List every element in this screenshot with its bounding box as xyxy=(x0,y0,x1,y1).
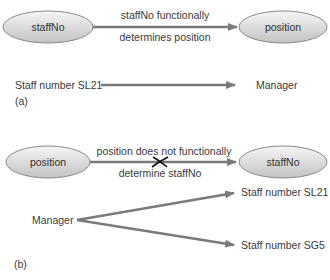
edge-label-line1: staffNo functionally xyxy=(121,9,210,21)
node-label: staffNo xyxy=(31,21,64,33)
caption-b: (b) xyxy=(14,258,27,270)
edge-label-line2: determines position xyxy=(119,31,210,43)
functional-dependency-diagram: staffNo position staffNo functionally de… xyxy=(0,0,330,280)
example-manager: Manager xyxy=(32,214,74,226)
node-staffno-a: staffNo xyxy=(3,11,93,43)
node-position-b: position xyxy=(6,146,90,178)
arrow-manager-to-sg5 xyxy=(77,220,234,245)
example-target-sg5: Staff number SG5 xyxy=(241,239,325,251)
example-manager: Manager xyxy=(256,79,298,91)
edge-label-line1: position does not functionally xyxy=(97,145,233,157)
part-b: position staffNo position does not funct… xyxy=(6,145,329,270)
node-label: staffNo xyxy=(266,156,299,168)
node-position-a: position xyxy=(239,11,327,43)
example-target-sl21: Staff number SL21 xyxy=(241,186,329,198)
edge-label-line2: determine staffNo xyxy=(119,167,202,179)
node-staffno-b: staffNo xyxy=(239,146,327,178)
node-label: position xyxy=(265,21,301,33)
part-a: staffNo position staffNo functionally de… xyxy=(3,9,327,107)
caption-a: (a) xyxy=(15,95,28,107)
node-label: position xyxy=(30,156,66,168)
arrow-manager-to-sl21 xyxy=(77,193,234,220)
example-staff-number: Staff number SL21 xyxy=(15,79,103,91)
